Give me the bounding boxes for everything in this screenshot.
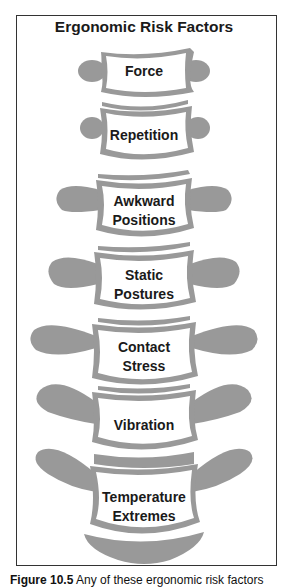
label-line: Positions	[84, 211, 204, 230]
label-repetition: Repetition	[84, 126, 204, 145]
label-line: Extremes	[84, 507, 204, 526]
label-line: Vibration	[84, 416, 204, 435]
label-line: Temperature	[84, 488, 204, 507]
label-temperature-extremes: Temperature Extremes	[84, 488, 204, 526]
label-static-postures: Static Postures	[84, 266, 204, 304]
label-contact-stress: Contact Stress	[84, 338, 204, 376]
label-line: Repetition	[84, 126, 204, 145]
label-line: Force	[84, 62, 204, 81]
label-line: Contact	[84, 338, 204, 357]
label-vibration: Vibration	[84, 416, 204, 435]
figure-caption: Figure 10.5 Any of these ergonomic risk …	[10, 573, 263, 587]
label-awkward-positions: Awkward Positions	[84, 192, 204, 230]
label-line: Postures	[84, 285, 204, 304]
figure-label: Figure 10.5	[10, 573, 73, 587]
label-line: Stress	[84, 357, 204, 376]
caption-text: Any of these ergonomic risk factors	[73, 573, 263, 587]
label-line: Awkward	[84, 192, 204, 211]
label-force: Force	[84, 62, 204, 81]
label-line: Static	[84, 266, 204, 285]
